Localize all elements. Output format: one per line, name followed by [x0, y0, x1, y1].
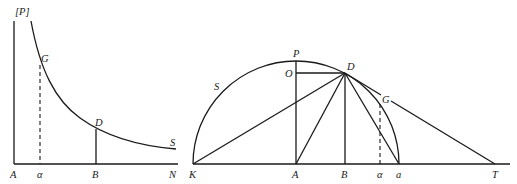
label-S: S: [170, 137, 176, 148]
label-G: G: [382, 94, 390, 105]
geometry-diagram: [P] G D S A α B N: [0, 0, 517, 184]
label-A: A: [9, 169, 17, 180]
label-N: N: [168, 169, 177, 180]
label-P: P: [292, 48, 300, 59]
label-B: B: [92, 169, 99, 180]
label-K: K: [188, 169, 197, 180]
label-P-axis: [P]: [15, 6, 30, 17]
label-D: D: [346, 61, 355, 72]
right-figure: P O D G S K A B α a T: [188, 48, 510, 180]
label-alpha: α: [377, 169, 383, 180]
label-alpha: α: [37, 169, 43, 180]
curve-S: [31, 21, 176, 149]
left-figure: [P] G D S A α B N: [9, 6, 178, 180]
label-B: B: [341, 169, 348, 180]
label-T: T: [492, 169, 499, 180]
label-A: A: [291, 169, 299, 180]
tangent-DT-part2: [391, 101, 495, 164]
label-D: D: [94, 117, 103, 128]
label-a: a: [396, 169, 401, 180]
chord-Da: [345, 73, 399, 164]
label-O: O: [285, 68, 293, 79]
label-S: S: [214, 81, 220, 92]
label-G: G: [41, 53, 49, 64]
tangent-DT-part1: [345, 73, 381, 95]
radius-AD: [296, 73, 345, 164]
